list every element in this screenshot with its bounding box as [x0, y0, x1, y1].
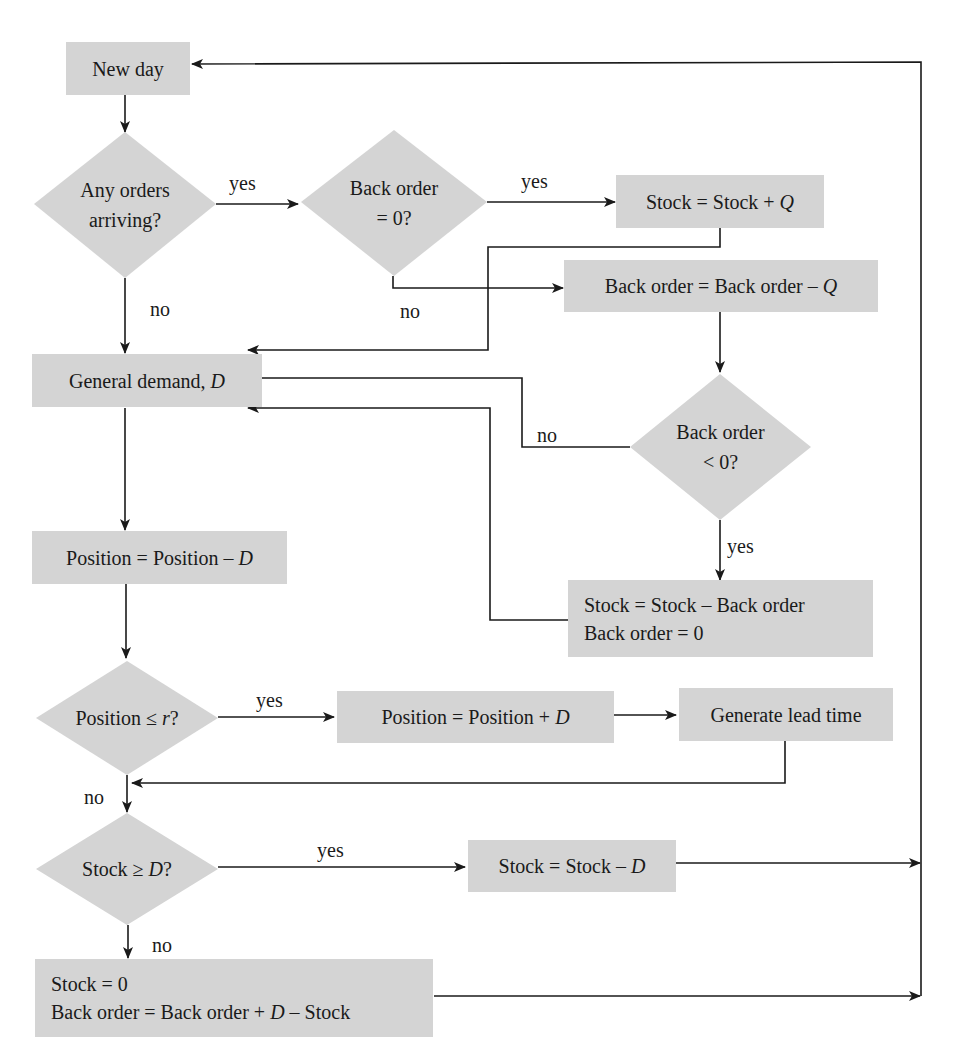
node-back-order-minus-q: Back order = Back order – Q — [564, 260, 878, 312]
stock-ge-d-text: Stock ≥ — [82, 858, 149, 880]
stock-zero-line1: Stock = 0 — [51, 970, 128, 998]
node-stock-minus-d: Stock = Stock – D — [468, 840, 676, 892]
node-generate-lead-time: Generate lead time — [679, 688, 893, 741]
decision-back-order-negative: Back order < 0? — [630, 374, 811, 520]
stock-minus-d-text: Stock = Stock – — [499, 855, 631, 877]
decision-stock-ge-d: Stock ≥ D? — [36, 813, 218, 925]
node-general-demand: General demand, D — [32, 354, 262, 407]
decision-position-le-r: Position ≤ r? — [36, 661, 218, 775]
stock-minus-back-order-line1: Stock = Stock – Back order — [584, 591, 805, 619]
edge-label-any-orders-no: no — [150, 298, 170, 320]
node-new-day-label: New day — [92, 55, 164, 83]
back-order-zero-line2: = 0? — [376, 203, 411, 233]
edge-label-position-le-r-yes: yes — [256, 689, 283, 711]
edge-label-stock-ge-d-yes: yes — [317, 839, 344, 861]
node-position-plus-d: Position = Position + D — [337, 691, 614, 743]
question-mark: ? — [163, 858, 172, 880]
stock-plus-q-text: Stock = Stock + — [646, 191, 780, 213]
edge-label-any-orders-yes: yes — [229, 172, 256, 194]
back-order-minus-q-text: Back order = Back order – — [605, 275, 823, 297]
node-stock-plus-q: Stock = Stock + Q — [616, 175, 824, 228]
position-minus-d-text: Position = Position – — [66, 547, 238, 569]
back-order-zero-line1: Back order — [350, 173, 438, 203]
back-order-neg-line1: Back order — [676, 417, 764, 447]
stock-minus-back-order-line2: Back order = 0 — [584, 619, 704, 647]
var-q: Q — [823, 275, 837, 297]
var-d: D — [149, 858, 163, 880]
stock-zero-line2-prefix: Back order = Back order + — [51, 1001, 270, 1023]
var-q: Q — [780, 191, 794, 213]
var-d: D — [238, 547, 252, 569]
node-stock-zero: Stock = 0 Back order = Back order + D – … — [35, 959, 433, 1037]
generate-lead-time-label: Generate lead time — [710, 701, 861, 729]
position-le-r-text: Position ≤ — [75, 707, 162, 729]
any-orders-line1: Any orders — [80, 175, 169, 205]
node-new-day: New day — [66, 42, 190, 95]
general-demand-text: General demand, — [69, 370, 211, 392]
any-orders-line2: arriving? — [89, 205, 161, 235]
var-d: D — [555, 706, 569, 728]
var-r: r — [162, 707, 170, 729]
edge-label-back-order-zero-no: no — [400, 300, 420, 322]
edge-label-back-order-neg-yes: yes — [727, 535, 754, 557]
node-position-minus-d: Position = Position – D — [32, 531, 287, 584]
var-d: D — [270, 1001, 284, 1023]
decision-any-orders: Any orders arriving? — [34, 132, 216, 278]
var-d: D — [211, 370, 225, 392]
var-d: D — [631, 855, 645, 877]
edge-label-position-le-r-no: no — [84, 786, 104, 808]
question-mark: ? — [170, 707, 179, 729]
stock-zero-line2-suffix: – Stock — [285, 1001, 351, 1023]
decision-back-order-zero: Back order = 0? — [301, 130, 487, 276]
back-order-neg-line2: < 0? — [703, 447, 738, 477]
edge-label-back-order-zero-yes: yes — [521, 170, 548, 192]
position-plus-d-text: Position = Position + — [381, 706, 555, 728]
edge-label-stock-ge-d-no: no — [152, 934, 172, 956]
node-stock-minus-back-order: Stock = Stock – Back order Back order = … — [568, 580, 873, 657]
edge-label-back-order-neg-no: no — [537, 424, 557, 446]
